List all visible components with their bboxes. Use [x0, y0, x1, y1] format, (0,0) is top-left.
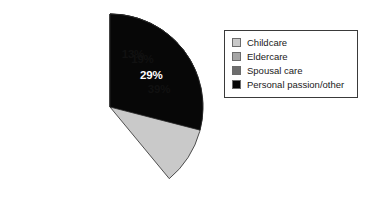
- pie-chart-figure: 39%19%13%29% Childcare Eldercare Spousal…: [0, 0, 370, 211]
- legend-swatch-icon-personal-passion-other: [232, 80, 241, 89]
- pie-slice-group: [110, 14, 203, 179]
- chart-legend: Childcare Eldercare Spousal care Persona…: [224, 30, 358, 98]
- legend-item-personal-passion-other[interactable]: Personal passion/other: [232, 78, 350, 91]
- pie-chart-plot-area: 39%19%13%29%: [15, 12, 205, 202]
- legend-item-eldercare[interactable]: Eldercare: [232, 50, 350, 63]
- pie-chart-svg: 39%19%13%29%: [15, 12, 205, 202]
- legend-swatch-icon-eldercare: [232, 52, 241, 61]
- pie-data-label: 29%: [140, 69, 162, 81]
- legend-swatch-icon-childcare: [232, 38, 241, 47]
- legend-item-spousal-care[interactable]: Spousal care: [232, 64, 350, 77]
- legend-item-childcare[interactable]: Childcare: [232, 36, 350, 49]
- legend-label-eldercare: Eldercare: [247, 51, 288, 62]
- pie-data-label: 39%: [148, 83, 170, 95]
- legend-label-childcare: Childcare: [247, 37, 287, 48]
- legend-label-personal-passion-other: Personal passion/other: [247, 79, 344, 90]
- legend-label-spousal-care: Spousal care: [247, 65, 302, 76]
- legend-swatch-icon-spousal-care: [232, 66, 241, 75]
- pie-data-label: 13%: [122, 48, 144, 60]
